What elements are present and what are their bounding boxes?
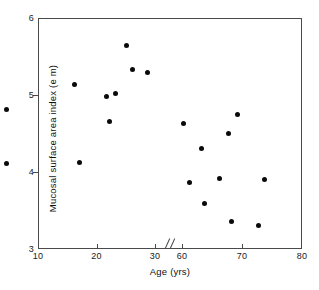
x-tick-label: 30 <box>150 251 161 261</box>
x-tick-label: 20 <box>91 251 102 261</box>
data-point <box>145 70 150 75</box>
data-point <box>217 176 222 181</box>
y-tick-label: 5 <box>22 90 34 100</box>
x-axis-break-icon <box>163 238 179 251</box>
data-point <box>130 67 135 72</box>
data-point <box>72 82 77 87</box>
x-tick-mark <box>155 244 156 249</box>
data-point <box>202 201 207 206</box>
scatter-plot-figure: 102030607080 3456 Age (yrs) Mucosal surf… <box>0 0 319 290</box>
x-tick-label: 10 <box>33 251 44 261</box>
y-tick-label: 4 <box>22 167 34 177</box>
x-tick-mark <box>182 244 183 249</box>
data-point <box>256 223 261 228</box>
y-tick-label: 3 <box>22 244 34 254</box>
data-point <box>113 91 118 96</box>
plot-area <box>38 18 302 249</box>
x-tick-label: 70 <box>237 251 248 261</box>
data-point <box>187 180 192 185</box>
data-point <box>107 119 112 124</box>
x-axis-title: Age (yrs) <box>38 266 302 277</box>
data-point <box>4 161 9 166</box>
data-point <box>235 112 240 117</box>
x-tick-label: 60 <box>177 251 188 261</box>
data-point <box>124 43 129 48</box>
data-points-layer <box>39 19 301 248</box>
data-point <box>77 160 82 165</box>
data-point <box>199 146 204 151</box>
data-point <box>226 131 231 136</box>
data-point <box>262 177 267 182</box>
x-tick-mark <box>242 244 243 249</box>
y-tick-label: 6 <box>22 13 34 23</box>
x-tick-label: 80 <box>297 251 308 261</box>
y-axis-title: Mucosal surface area index (e m) <box>47 39 58 239</box>
data-point <box>104 94 109 99</box>
data-point <box>229 219 234 224</box>
data-point <box>181 121 186 126</box>
data-point <box>4 107 9 112</box>
x-tick-mark <box>97 244 98 249</box>
